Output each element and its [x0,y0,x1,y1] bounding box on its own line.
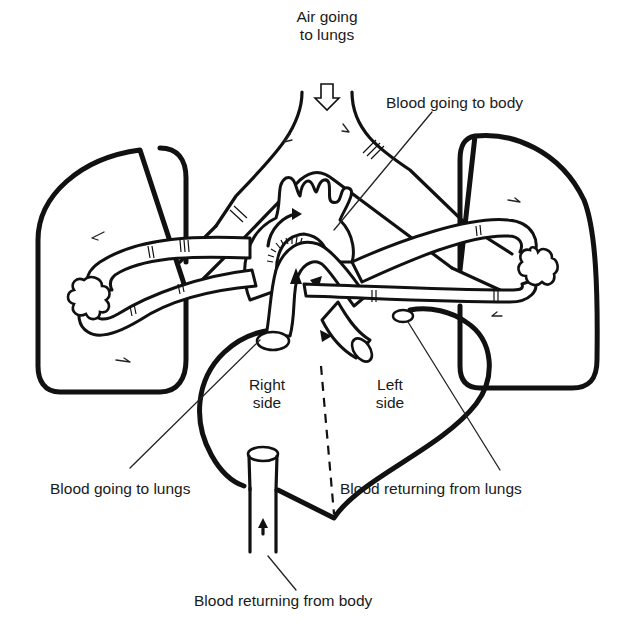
label-blood-going-to-lungs: Blood going to lungs [50,480,190,498]
label-right-line2: side [242,394,292,412]
left-lung-flow-arrow-bottom-icon [116,358,130,362]
leader-blood-to-body [334,112,432,230]
right-lung-alveoli [519,247,558,285]
label-left-side: Left side [368,376,412,412]
air-down-arrow-icon [315,84,339,110]
right-side-opening [257,332,289,350]
pulmonary-vein-opening [393,310,413,322]
vena-cava-opening [248,447,278,461]
left-lung-flow-arrow-top-icon [92,232,104,240]
label-right-side: Right side [242,376,292,412]
label-left-line2: side [368,394,412,412]
right-lung-flow-arrow-top-icon [508,198,520,202]
leader-blood-from-body [268,556,296,590]
label-blood-going-to-body: Blood going to body [386,94,523,112]
label-right-line1: Right [242,376,292,394]
air-flow-arrow-right-icon [342,124,349,132]
right-lung-flow-arrow-bottom-icon [492,312,502,316]
label-air-line1: Air going [284,8,370,26]
label-blood-returning-from-lungs: Blood returning from lungs [340,480,522,498]
label-left-line1: Left [368,376,412,394]
label-air-line2: to lungs [284,26,370,44]
heart-septum [321,366,334,514]
label-blood-returning-from-body: Blood returning from body [194,592,372,610]
label-air-going-to-lungs: Air going to lungs [284,8,370,44]
heart-lung-diagram [0,0,641,642]
leader-blood-to-lungs [130,340,260,468]
